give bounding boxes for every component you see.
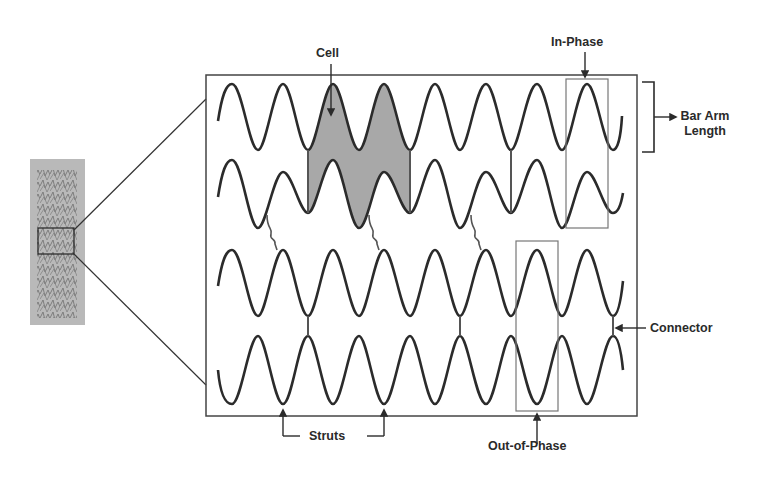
diagram-canvas [0, 0, 772, 488]
label-connector: Connector [650, 321, 713, 336]
zoom-projection-lines [74, 99, 206, 385]
row3-row4-connectors [308, 316, 613, 336]
label-bar-arm-line1: Bar Arm [680, 109, 730, 124]
label-bar-arm-length: Bar Arm Length [680, 109, 730, 139]
stent-mesh [37, 170, 77, 318]
label-struts: Struts [309, 429, 345, 444]
label-out-of-phase: Out-of-Phase [488, 439, 566, 454]
row2-row3-flex-connectors [267, 215, 481, 250]
stent-diagram: Cell In-Phase Bar Arm Length Connector S… [0, 0, 772, 488]
label-bar-arm-line2: Length [680, 124, 730, 139]
label-cell: Cell [316, 46, 339, 61]
strut-row-3 [218, 250, 623, 316]
strut-row-4 [218, 336, 623, 404]
out-of-phase-box [516, 241, 558, 411]
strut-row-2 [218, 160, 623, 228]
strut-row-1 [218, 84, 622, 150]
label-in-phase: In-Phase [551, 35, 603, 50]
bar-arm-length-bracket [642, 82, 654, 152]
